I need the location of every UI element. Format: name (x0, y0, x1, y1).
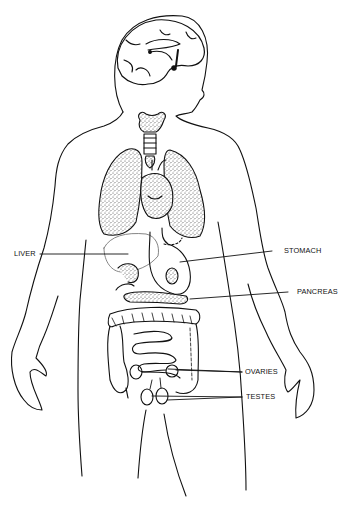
intestines (108, 307, 200, 398)
label-stomach: STOMACH (284, 247, 321, 255)
label-testes: TESTES (246, 393, 275, 401)
liver-and-stomach (104, 228, 190, 294)
label-liver: LIVER (14, 250, 36, 258)
endocrine-diagram: LIVER STOMACH PANCREAS OVARIES TESTES (0, 0, 345, 508)
label-ovaries: OVARIES (245, 368, 278, 376)
lungs (99, 149, 205, 238)
label-pancreas: PANCREAS (297, 288, 338, 296)
leader-lines (40, 251, 288, 400)
testes (141, 378, 168, 405)
body-outline (12, 16, 315, 496)
